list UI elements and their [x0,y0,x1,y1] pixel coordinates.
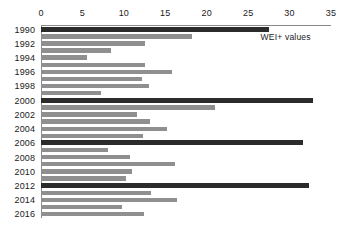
bar-1994 [41,55,87,59]
bar-row [41,190,331,197]
bar-1990 [41,27,269,32]
bar-row [41,154,331,161]
bar-2012 [41,183,309,188]
bar-1996 [41,70,172,74]
bar-2001 [41,105,215,109]
bar-row [41,118,331,125]
y-axis-tick-1998: 1998 [15,81,35,91]
y-axis-tick-2016: 2016 [15,209,35,219]
series-annotation-label: WEI+ values [261,32,311,42]
y-axis-tick-2004: 2004 [15,124,35,134]
x-axis-tick-30: 30 [284,8,294,18]
bar-1993 [41,48,111,52]
y-axis-tick-2002: 2002 [15,110,35,120]
bar-row [41,161,331,168]
y-axis-tick-2008: 2008 [15,153,35,163]
bar-1997 [41,77,142,81]
bar-row [41,69,331,76]
bar-row [41,47,331,54]
x-axis-tick-25: 25 [243,8,253,18]
y-axis-tick-1994: 1994 [15,53,35,63]
bar-2007 [41,148,108,152]
bar-1992 [41,41,145,45]
bar-row [41,126,331,133]
bar-2008 [41,155,130,159]
y-axis-tick-labels: 1990199219941996199820002002200420062008… [0,26,39,218]
bar-row [41,197,331,204]
x-axis-tick-15: 15 [160,8,170,18]
bar-2002 [41,112,137,116]
y-axis-tick-1990: 1990 [15,25,35,35]
bar-row [41,97,331,104]
bar-2013 [41,191,151,195]
bar-row [41,168,331,175]
plot-area [41,26,331,218]
bar-2010 [41,169,132,173]
bar-row [41,62,331,69]
bar-row [41,111,331,118]
bar-row [41,175,331,182]
bar-row [41,211,331,218]
x-axis-tick-10: 10 [119,8,129,18]
bar-row [41,133,331,140]
bar-2003 [41,119,150,123]
bar-2006 [41,140,303,145]
bar-2011 [41,176,126,180]
x-axis-tick-labels: 05101520253035 [0,8,361,22]
y-axis-tick-2014: 2014 [15,195,35,205]
bar-2000 [41,98,313,103]
bar-chart: 05101520253035 1990199219941996199820002… [0,0,361,226]
bar-1998 [41,84,149,88]
bar-row [41,147,331,154]
bar-2015 [41,205,122,209]
bar-row [41,204,331,211]
y-axis-tick-2010: 2010 [15,167,35,177]
bar-2004 [41,127,167,131]
bar-row [41,76,331,83]
x-axis-tick-0: 0 [38,8,43,18]
bar-1995 [41,63,145,67]
bar-row [41,83,331,90]
y-axis-tick-1992: 1992 [15,39,35,49]
y-axis-tick-2006: 2006 [15,138,35,148]
bar-2016 [41,212,144,216]
bar-row [41,54,331,61]
x-axis-tick-35: 35 [326,8,336,18]
x-axis-tick-5: 5 [80,8,85,18]
y-axis-tick-1996: 1996 [15,67,35,77]
x-axis-tick-20: 20 [201,8,211,18]
y-axis-tick-2012: 2012 [15,181,35,191]
bar-2005 [41,134,143,138]
bar-row [41,140,331,147]
bar-row [41,182,331,189]
bar-row [41,104,331,111]
y-axis-tick-2000: 2000 [15,96,35,106]
bar-2009 [41,162,175,166]
bar-2014 [41,198,177,202]
bar-row [41,90,331,97]
bar-1991 [41,34,192,38]
bar-1999 [41,91,101,95]
